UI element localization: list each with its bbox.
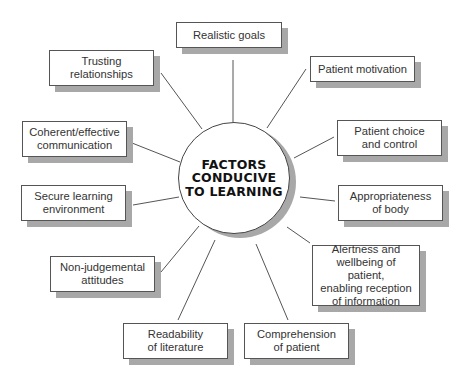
factor-label-line: Coherent/effective <box>29 126 120 139</box>
connector-patient-motivation <box>267 69 306 128</box>
factor-box-trusting-relationships: Trustingrelationships <box>49 50 154 86</box>
factor-label: Coherent/effectivecommunication <box>29 126 120 152</box>
factor-box-comprehension: Comprehensionof patient <box>244 323 349 359</box>
factor-label-line: of information <box>317 295 415 308</box>
factor-label: Appropriatenessof body <box>350 190 431 216</box>
connector-comprehension <box>256 244 288 320</box>
factor-box-readability: Readabilityof literature <box>123 323 228 359</box>
factor-label-line: Secure learning <box>34 190 112 203</box>
factor-box-alertness-wellbeing: Alertness andwellbeing of patient,enabli… <box>312 245 420 306</box>
factor-label: Realistic goals <box>193 29 265 42</box>
connector-patient-choice <box>294 137 334 158</box>
factor-label-line: attitudes <box>60 274 145 287</box>
center-title-line-2: CONDUCIVE <box>192 171 277 185</box>
factor-label-line: Comprehension <box>257 328 336 341</box>
factor-label: Patient choiceand control <box>354 125 424 151</box>
factor-box-coherent-communication: Coherent/effectivecommunication <box>22 121 127 157</box>
factor-label: Trustingrelationships <box>70 55 133 81</box>
factor-label-line: wellbeing of patient, <box>317 256 415 282</box>
factor-label-line: Non-judgemental <box>60 261 145 274</box>
factor-label: Comprehensionof patient <box>257 328 336 354</box>
connector-appropriateness-of-body <box>300 197 335 201</box>
factor-label-line: of literature <box>148 341 204 354</box>
factor-box-patient-motivation: Patient motivation <box>310 56 415 82</box>
factor-label: Readabilityof literature <box>148 328 204 354</box>
factor-label-line: enabling reception <box>317 282 415 295</box>
connector-secure-environment <box>133 197 179 205</box>
connector-non-judgemental <box>161 226 199 272</box>
factor-label-line: of body <box>350 203 431 216</box>
factor-box-secure-environment: Secure learningenvironment <box>21 185 126 221</box>
factor-label-line: communication <box>29 139 120 152</box>
center-circle: FACTORS CONDUCIVE TO LEARNING <box>178 122 290 234</box>
connector-readability <box>178 240 215 320</box>
center-title-line-3: TO LEARNING <box>185 185 282 199</box>
factor-box-appropriateness-of-body: Appropriatenessof body <box>338 185 443 221</box>
factor-label-line: Appropriateness <box>350 190 431 203</box>
diagram-canvas: FACTORS CONDUCIVE TO LEARNING Realistic … <box>0 0 468 385</box>
factor-label: Patient motivation <box>318 63 407 76</box>
factor-label: Secure learningenvironment <box>34 190 112 216</box>
factor-label-line: relationships <box>70 68 133 81</box>
factor-label-line: Patient motivation <box>318 63 407 76</box>
connector-alertness-wellbeing <box>287 227 310 243</box>
factor-box-non-judgemental: Non-judgementalattitudes <box>50 256 155 292</box>
center-title-line-1: FACTORS <box>201 158 266 172</box>
factor-label: Non-judgementalattitudes <box>60 261 145 287</box>
factor-label-line: Trusting <box>70 55 133 68</box>
factor-label: Alertness andwellbeing of patient,enabli… <box>317 243 415 308</box>
connector-trusting-relationships <box>161 73 202 129</box>
factor-label-line: of patient <box>257 341 336 354</box>
factor-label-line: Readability <box>148 328 204 341</box>
factor-label-line: Alertness and <box>317 243 415 256</box>
factor-label-line: and control <box>354 138 424 151</box>
factor-label-line: environment <box>34 203 112 216</box>
factor-box-patient-choice: Patient choiceand control <box>337 120 442 156</box>
connector-coherent-communication <box>132 143 180 162</box>
factor-box-realistic-goals: Realistic goals <box>176 22 282 48</box>
factor-label-line: Patient choice <box>354 125 424 138</box>
factor-label-line: Realistic goals <box>193 29 265 42</box>
